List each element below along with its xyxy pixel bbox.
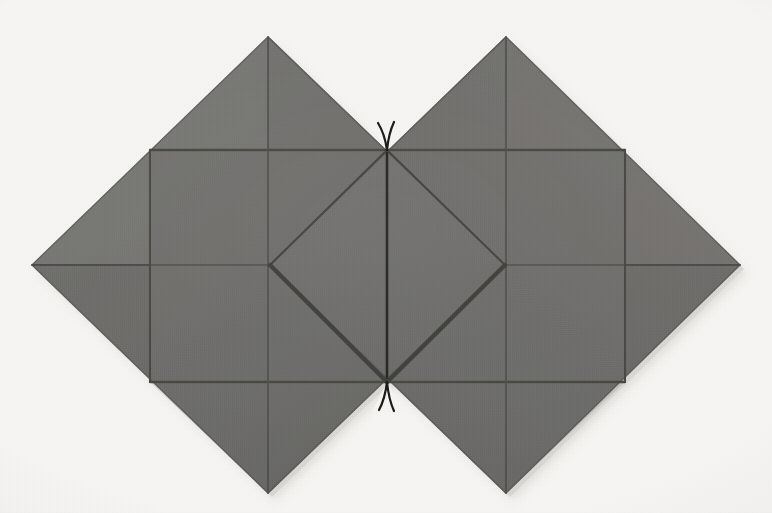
paper-figure [0, 0, 772, 513]
image-canvas [0, 0, 772, 513]
crease-lines [32, 37, 740, 493]
